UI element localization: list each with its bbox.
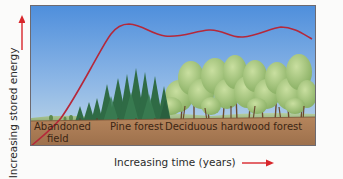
stage-label-pine-forest: Pine forest	[110, 121, 163, 132]
x-axis: Increasing time (years)	[114, 156, 275, 168]
y-axis-label: Increasing stored energy	[7, 48, 19, 179]
stage-label-line2: field	[47, 133, 69, 144]
x-axis-arrow-icon	[241, 158, 275, 168]
succession-diagram: Increasing stored energy	[0, 0, 343, 179]
stage-label-line1: Abandoned	[34, 121, 91, 132]
x-axis-label: Increasing time (years)	[114, 156, 236, 168]
stage-label-deciduous-forest: Deciduous hardwood forest	[165, 121, 302, 132]
stage-label-abandoned-field-line2: field	[47, 133, 69, 144]
y-axis: Increasing stored energy	[3, 5, 25, 146]
diagram-panel: Abandoned field Pine forest Deciduous ha…	[30, 5, 316, 146]
stage-label-abandoned-field: Abandoned	[34, 121, 91, 132]
